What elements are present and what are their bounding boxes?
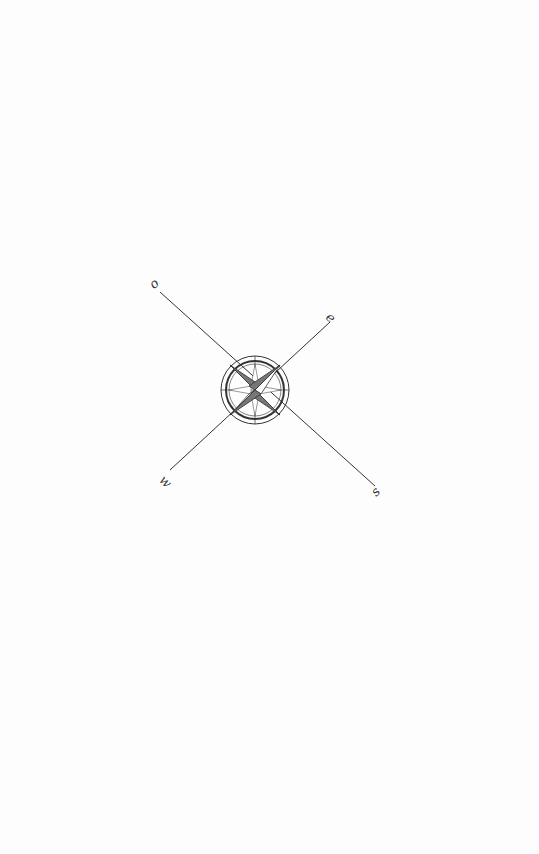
compass-rose <box>0 0 539 854</box>
